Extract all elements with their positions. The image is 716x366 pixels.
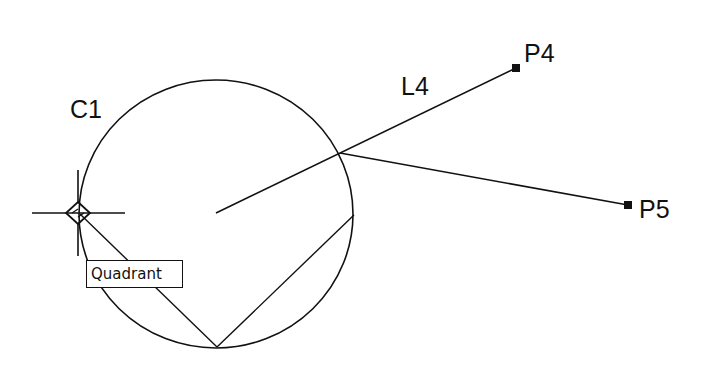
- point-p4-marker[interactable]: [512, 64, 520, 72]
- line-to-p5[interactable]: [340, 153, 628, 205]
- cad-drawing-canvas[interactable]: C1 L4 P4 P5: [0, 0, 716, 366]
- point-p5-marker[interactable]: [624, 201, 632, 209]
- label-l4: L4: [401, 72, 429, 100]
- label-c1: C1: [70, 95, 102, 123]
- line-l4[interactable]: [216, 68, 516, 213]
- crosshair-cursor-icon: [32, 170, 125, 256]
- chord-bottom-right[interactable]: [217, 215, 354, 347]
- label-p5: P5: [639, 195, 670, 223]
- osnap-tooltip: Quadrant: [86, 260, 183, 288]
- circle-c1[interactable]: [79, 80, 353, 348]
- label-p4: P4: [524, 39, 555, 67]
